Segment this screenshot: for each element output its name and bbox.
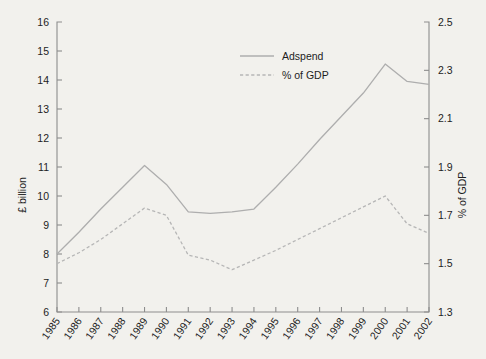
chart-container: 678910111213141516 1.31.51.71.92.12.32.5… [0,0,486,359]
legend-label: % of GDP [282,69,329,81]
right-tick-label: 1.9 [438,161,453,173]
right-tick-label: 2.5 [438,16,453,28]
right-tick-label: 2.3 [438,64,453,76]
left-tick-label: 13 [37,103,49,115]
left-tick-label: 10 [37,190,49,202]
right-axis-title: % of GDP [456,172,468,219]
chart-background [0,0,486,359]
left-tick-label: 15 [37,45,49,57]
left-tick-label: 14 [37,74,49,86]
line-chart: 678910111213141516 1.31.51.71.92.12.32.5… [0,0,486,359]
left-tick-label: 7 [43,277,49,289]
left-axis-title: £ billion [16,177,28,213]
right-tick-label: 1.5 [438,257,453,269]
left-tick-label: 16 [37,16,49,28]
right-tick-label: 2.1 [438,112,453,124]
left-tick-label: 8 [43,248,49,260]
left-tick-label: 9 [43,219,49,231]
right-tick-label: 1.7 [438,209,453,221]
legend-label: Adspend [282,50,324,62]
right-tick-label: 1.3 [438,306,453,318]
left-tick-label: 11 [38,161,49,173]
left-tick-label: 12 [37,132,49,144]
left-tick-label: 6 [43,306,49,318]
